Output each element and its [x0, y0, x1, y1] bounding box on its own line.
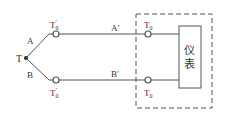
terminal-upper-end — [145, 31, 151, 37]
terminal-lower-end-label: T0 — [144, 88, 153, 99]
terminal-lower-mid — [53, 77, 59, 83]
wire-b-label: B — [27, 70, 33, 80]
terminal-lower-mid-label: T0′ — [50, 86, 59, 99]
junction-label: T — [16, 53, 22, 64]
terminal-upper-mid — [53, 31, 59, 37]
wire-a-label: A — [27, 36, 34, 46]
terminal-upper-mid-label: T0′ — [50, 18, 59, 31]
instrument-label-2: 表 — [184, 57, 195, 71]
wire-a-prime-label: A′ — [111, 23, 119, 33]
wire-b-prime-label: B′ — [111, 69, 119, 79]
instrument-label-1: 仪 — [184, 44, 195, 57]
thermocouple-diagram: T A B T0′ T0′ A′ B′ T0 T0 仪 表 — [0, 0, 225, 113]
terminal-upper-end-label: T0 — [144, 20, 153, 31]
instrument-box — [179, 26, 201, 88]
terminal-lower-end — [145, 77, 151, 83]
